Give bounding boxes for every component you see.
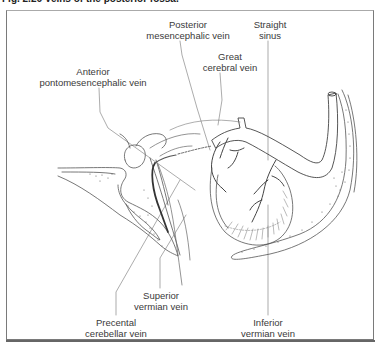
label-line: Anterior <box>39 66 146 77</box>
label-line: cerebral vein <box>203 62 257 73</box>
bone-stipple <box>89 173 162 246</box>
skull-base <box>58 158 180 256</box>
dashed-vessel <box>178 146 212 154</box>
label-line: cerebellar vein <box>85 328 147 339</box>
label-line: Straight <box>254 19 287 30</box>
label-line: Superior <box>134 290 188 301</box>
venous-sinus <box>212 92 338 178</box>
vein-branches <box>211 138 284 222</box>
label-anterior-pontomesencephalic-vein: Anterior pontomesencephalic vein <box>39 66 146 88</box>
label-line: Precental <box>85 317 147 328</box>
cerebellum <box>210 166 293 245</box>
label-posterior-mesencephalic-vein: Posterior mesencephalic vein <box>146 19 229 41</box>
posterior-fossa-illustration <box>0 0 380 350</box>
label-line: Inferior <box>241 317 295 328</box>
sella-region <box>120 134 166 168</box>
label-great-cerebral-vein: Great cerebral vein <box>203 51 257 73</box>
label-straight-sinus: Straight sinus <box>254 19 287 41</box>
leader-anterior-pontomesencephalic <box>99 88 195 190</box>
label-precental-cerebellar-vein: Precental cerebellar vein <box>85 317 147 339</box>
occipital-bone <box>231 90 356 259</box>
label-line: mesencephalic vein <box>146 30 229 41</box>
label-line: sinus <box>254 30 287 41</box>
brainstem <box>150 134 200 285</box>
label-superior-vermian-vein: Superior vermian vein <box>134 290 188 312</box>
label-inferior-vermian-vein: Inferior vermian vein <box>241 317 295 339</box>
label-line: pontomesencephalic vein <box>39 77 146 88</box>
label-line: Great <box>203 51 257 62</box>
label-line: vermian vein <box>134 301 188 312</box>
label-line: vermian vein <box>241 328 295 339</box>
leader-great-cerebral <box>218 73 222 125</box>
tentorium <box>170 120 240 130</box>
label-line: Posterior <box>146 19 229 30</box>
cerebellar-folia <box>225 191 288 240</box>
